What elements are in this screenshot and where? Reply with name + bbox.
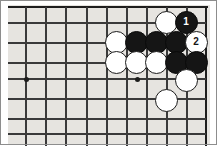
figure-frame <box>0 0 217 145</box>
go-board-diagram: 12 <box>0 0 218 146</box>
